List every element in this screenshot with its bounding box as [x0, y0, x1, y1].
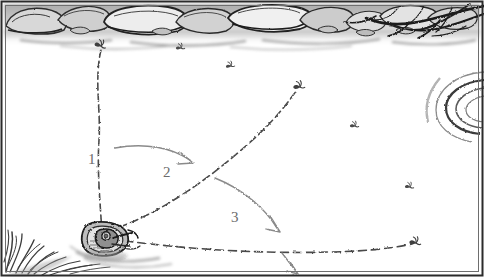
cast-label-2: 2	[163, 165, 171, 180]
fly-fishing-diagram: 1 2 3	[0, 0, 484, 277]
diagram-canvas	[0, 0, 484, 277]
far-bank	[4, 4, 484, 50]
cast-label-1: 1	[88, 152, 96, 167]
cast-label-3: 3	[231, 210, 239, 225]
